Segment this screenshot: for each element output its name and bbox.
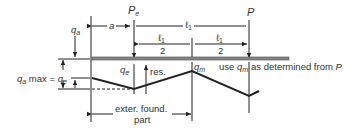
- exter-found-label: exter. found.: [115, 104, 167, 114]
- qa-max-equation: qa max = qe: [17, 74, 67, 85]
- use-qm-note: use qm: [219, 62, 248, 73]
- footing: [92, 57, 289, 60]
- dim-l1-label: ℓ1: [183, 20, 194, 31]
- l1-half-right-label: ℓ1: [216, 33, 223, 44]
- dim-a-label: a: [107, 21, 116, 31]
- soil-pressure-line: [92, 71, 259, 96]
- l1-half-left-label: ℓ1: [158, 33, 165, 44]
- l1-half-left-den: 2: [160, 46, 165, 56]
- qe-label: qe: [120, 65, 129, 76]
- res-label: res.: [150, 67, 166, 77]
- determined-from-note: as determined from P: [251, 62, 342, 72]
- qa-label: qa: [71, 25, 80, 36]
- load-pe-label: Pe: [128, 5, 139, 17]
- exter-found-part-label: part: [134, 115, 150, 125]
- l1-half-right-den: 2: [218, 46, 223, 56]
- qm-label: qm: [194, 62, 205, 73]
- load-p-label: P: [247, 7, 254, 18]
